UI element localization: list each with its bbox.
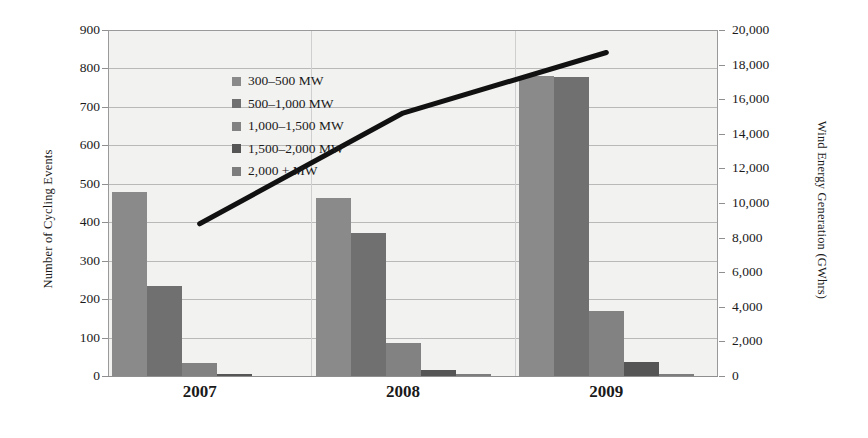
legend-swatch-icon [232, 122, 241, 131]
legend-label: 2,000 + MW [248, 163, 317, 179]
y-tick-label-left: 800 [40, 61, 100, 75]
y-tick-label-right: 14,000 [732, 127, 802, 141]
y-tick-label-left: 200 [40, 292, 100, 306]
legend-swatch-icon [232, 144, 241, 153]
line-series-layer [108, 30, 718, 376]
y-tick-label-right: 2,000 [732, 334, 802, 348]
y-tick-label-right: 18,000 [732, 58, 802, 72]
legend-swatch-icon [232, 99, 241, 108]
legend-label: 1,000–1,500 MW [248, 118, 344, 134]
legend-swatch-icon [232, 167, 241, 176]
y-tick-label-right: 4,000 [732, 300, 802, 314]
legend-item[interactable]: 1,000–1,500 MW [232, 115, 344, 138]
y-tick-label-left: 400 [40, 215, 100, 229]
legend-label: 1,500–2,000 MW [248, 141, 344, 157]
plot-border-top [108, 30, 718, 31]
y-tick-mark-right [719, 341, 725, 342]
legend-item[interactable]: 300–500 MW [232, 70, 344, 93]
y-tick-mark-right [719, 376, 725, 377]
y-tick-label-left: 700 [40, 100, 100, 114]
legend-label: 500–1,000 MW [248, 96, 334, 112]
y-tick-label-right: 12,000 [732, 161, 802, 175]
y-tick-label-right: 6,000 [732, 265, 802, 279]
gridline [108, 376, 718, 377]
legend-item[interactable]: 500–1,000 MW [232, 93, 344, 116]
y-tick-mark-right [719, 238, 725, 239]
legend-item[interactable]: 2,000 + MW [232, 160, 344, 183]
chart-container: Number of Cycling Events Wind Energy Gen… [0, 0, 868, 438]
y-tick-label-right: 10,000 [732, 196, 802, 210]
x-axis-label: 2009 [546, 382, 666, 402]
y-tick-label-left: 0 [40, 369, 100, 383]
axis-line-right [717, 30, 718, 376]
legend-swatch-icon [232, 77, 241, 86]
y-tick-label-left: 600 [40, 138, 100, 152]
y-tick-label-right: 8,000 [732, 231, 802, 245]
y-tick-mark-right [719, 272, 725, 273]
y-tick-mark-right [719, 65, 725, 66]
y-tick-mark-right [719, 168, 725, 169]
y-tick-mark-right [719, 203, 725, 204]
y-tick-label-left: 900 [40, 23, 100, 37]
y-tick-mark-right [719, 30, 725, 31]
y-tick-label-right: 20,000 [732, 23, 802, 37]
y-tick-mark-right [719, 134, 725, 135]
axis-line-left [108, 30, 109, 376]
y-tick-label-right: 0 [732, 369, 802, 383]
y-tick-label-left: 300 [40, 254, 100, 268]
y-tick-label-left: 100 [40, 331, 100, 345]
y-tick-label-right: 16,000 [732, 92, 802, 106]
y-tick-mark-right [719, 307, 725, 308]
legend-label: 300–500 MW [248, 73, 323, 89]
legend-item[interactable]: 1,500–2,000 MW [232, 138, 344, 161]
x-axis-label: 2008 [343, 382, 463, 402]
y-tick-label-left: 500 [40, 177, 100, 191]
y-axis-right-title: Wind Energy Generation (GWhrs) [814, 85, 829, 335]
plot-area: 300–500 MW500–1,000 MW1,000–1,500 MW1,50… [108, 30, 718, 376]
legend: 300–500 MW500–1,000 MW1,000–1,500 MW1,50… [232, 70, 344, 183]
x-axis-label: 2007 [140, 382, 260, 402]
y-tick-mark-right [719, 99, 725, 100]
